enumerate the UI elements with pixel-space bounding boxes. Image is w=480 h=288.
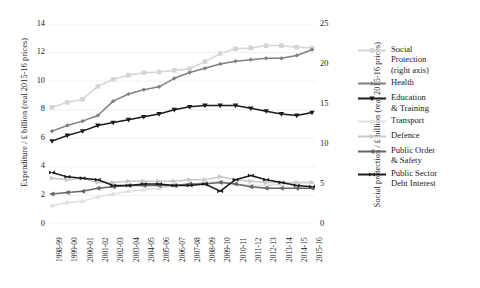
x-axis-tick-label: 2002-03 <box>116 237 125 262</box>
data-point <box>218 174 223 179</box>
x-axis-tick-label: 2011-12 <box>254 238 263 262</box>
data-point <box>126 179 131 184</box>
x-axis-tick-label: 2015-16 <box>315 237 324 262</box>
data-point <box>187 67 192 72</box>
data-point <box>203 59 208 64</box>
series-line <box>52 50 312 131</box>
data-point <box>279 43 284 48</box>
data-point <box>141 88 146 92</box>
data-point <box>294 53 299 57</box>
data-point <box>187 177 192 182</box>
series-health <box>50 48 315 134</box>
x-axis-tick-label: 2010-11 <box>239 238 248 262</box>
legend-item-label: Public SectorDebt Interest <box>391 167 437 189</box>
y-axis-left-tick-label: 14 <box>23 19 45 28</box>
y-axis-left-tick-label: 10 <box>23 76 45 85</box>
data-point <box>141 71 146 76</box>
plot-area <box>49 24 315 224</box>
data-point <box>157 70 162 75</box>
data-point <box>233 178 239 182</box>
legend-item-label: Transport <box>391 114 424 125</box>
chart-svg <box>49 24 315 224</box>
legend-item-health[interactable]: Health <box>357 76 480 90</box>
series-line <box>52 46 312 108</box>
y-axis-right-tick-label: 25 <box>320 19 342 28</box>
series-social-protection-right-axis <box>50 43 315 109</box>
x-axis-tick-label: 2008-09 <box>208 237 217 262</box>
data-point <box>50 129 55 133</box>
chart-figure: Expenditure / £ billion (real 2015-16 pr… <box>0 0 480 288</box>
legend-marker-icon <box>357 44 387 57</box>
x-axis-tick-label: 2001-02 <box>101 237 110 262</box>
x-axis-tick-label: 2007-08 <box>193 237 202 262</box>
data-point <box>80 97 85 102</box>
data-point <box>65 123 70 127</box>
legend-item-label: Health <box>391 76 414 87</box>
x-axis-tick-label: 2012-13 <box>269 237 278 262</box>
data-point <box>172 179 177 184</box>
y-axis-left-tick-label: 0 <box>23 219 45 228</box>
legend-item-transport[interactable]: Transport <box>357 114 480 128</box>
legend-marker-icon <box>357 92 387 105</box>
data-point <box>50 105 55 110</box>
y-axis-left-tick-label: 12 <box>23 47 45 56</box>
data-point <box>203 66 208 70</box>
chart-legend: SocialProtection(right axis)HealthEducat… <box>357 43 480 190</box>
series-line <box>52 105 312 141</box>
y-axis-right-tick-label: 15 <box>320 99 342 108</box>
x-axis-tick-label: 2004-05 <box>147 237 156 262</box>
legend-item-public-order-safety[interactable]: Public Order& Safety <box>357 144 480 166</box>
legend-item-label: Public Order& Safety <box>391 144 435 166</box>
data-point <box>263 178 269 182</box>
data-point <box>64 175 70 179</box>
data-point <box>49 171 55 175</box>
series-defence <box>50 174 315 185</box>
legend-marker-icon <box>357 130 387 143</box>
y-axis-right-tick-label: 0 <box>320 219 342 228</box>
data-point <box>249 58 254 62</box>
data-point <box>279 56 284 60</box>
x-axis-tick-label: 2009-10 <box>223 237 232 262</box>
data-point <box>248 173 254 177</box>
legend-marker-icon <box>357 77 387 90</box>
data-point <box>65 100 70 105</box>
data-point <box>233 59 238 63</box>
data-point <box>279 186 284 191</box>
data-point <box>49 139 54 144</box>
legend-item-social-protection-right-axis[interactable]: SocialProtection(right axis) <box>357 43 480 75</box>
data-point <box>233 47 238 52</box>
legend-item-public-sector-debt-interest[interactable]: Public SectorDebt Interest <box>357 167 480 189</box>
y-axis-right-tick-label: 5 <box>320 179 342 188</box>
data-point <box>249 179 254 184</box>
data-point <box>126 73 131 78</box>
legend-marker-icon <box>357 168 387 181</box>
y-axis-right-tick-label: 20 <box>320 59 342 68</box>
x-axis-tick-label: 2003-04 <box>132 237 141 262</box>
data-point <box>217 189 223 193</box>
x-axis-tick-label: 1998-99 <box>55 237 64 262</box>
legend-item-label: Education& Training <box>391 91 429 113</box>
data-point <box>111 77 116 82</box>
legend-marker-icon <box>357 115 387 128</box>
data-point <box>264 56 269 60</box>
y-axis-left-tick-label: 2 <box>23 190 45 199</box>
data-point <box>187 70 192 74</box>
y-axis-right-tick-label: 10 <box>320 139 342 148</box>
data-point <box>218 62 223 66</box>
legend-item-label: SocialProtection(right axis) <box>391 43 429 75</box>
data-point <box>264 43 269 48</box>
data-point <box>96 84 101 89</box>
legend-marker-icon <box>357 145 387 158</box>
data-point <box>80 176 86 180</box>
y-axis-left-tick-label: 4 <box>23 161 45 170</box>
data-point <box>172 68 177 73</box>
x-axis-tick-label: 2013-14 <box>285 237 294 262</box>
legend-item-defence[interactable]: Defence <box>357 129 480 143</box>
legend-item-education-training[interactable]: Education& Training <box>357 91 480 113</box>
legend-item-label: Defence <box>391 129 420 140</box>
x-axis-tick-label: 2014-15 <box>300 237 309 262</box>
data-point <box>50 176 55 181</box>
data-point <box>64 190 69 195</box>
data-point <box>80 119 85 123</box>
data-point <box>95 186 100 191</box>
